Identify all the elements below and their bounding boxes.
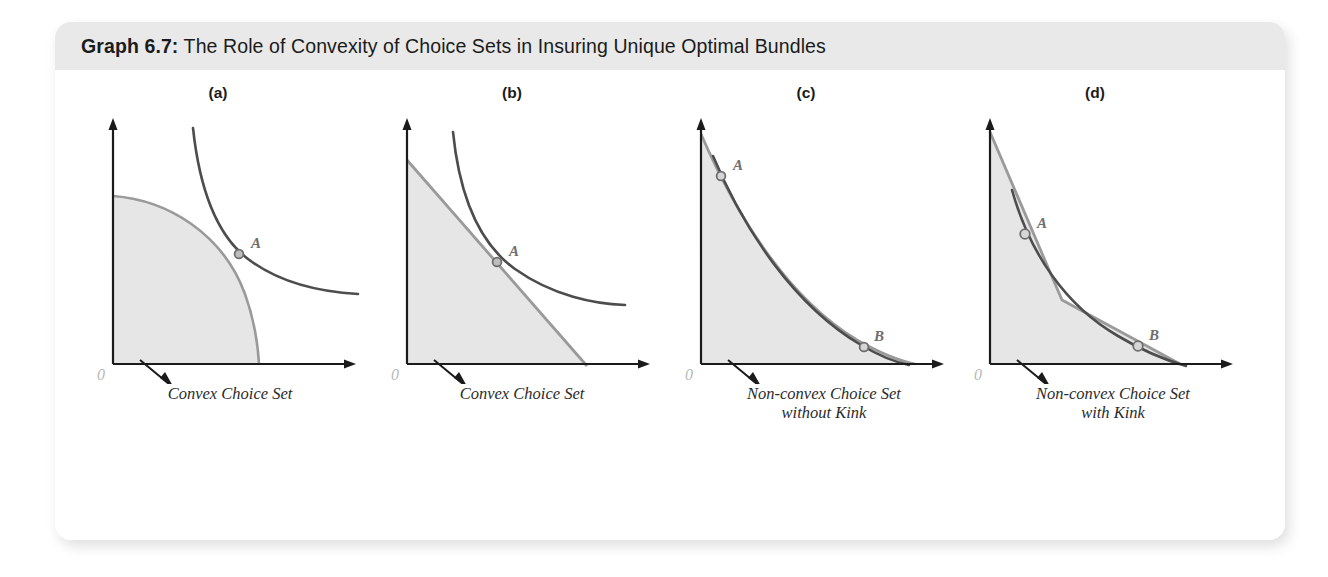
panel-c-caption-line2: without Kink: [679, 403, 969, 422]
panels-container: (a) 0 A: [55, 70, 1285, 540]
origin-label-c: 0: [685, 366, 693, 383]
panel-a-plot: 0 A: [73, 114, 363, 384]
point-marker-d-A: [1020, 229, 1030, 239]
point-marker-d-B: [1133, 341, 1143, 351]
y-axis-arrow-a: [109, 118, 118, 130]
panel-b-caption-line1: Convex Choice Set: [460, 384, 585, 403]
panel-d: (d) 0 A: [950, 70, 1240, 480]
panel-a-caption: Convex Choice Set: [85, 384, 375, 403]
point-label-b-A: A: [508, 243, 519, 259]
panel-a: (a) 0 A: [73, 70, 363, 480]
point-label-c-A: A: [732, 157, 743, 173]
caption-pointer-head-c: [748, 372, 762, 384]
x-axis-arrow-a: [344, 360, 356, 369]
panel-a-label: (a): [73, 84, 363, 102]
panel-a-caption-line1: Convex Choice Set: [168, 384, 293, 403]
point-marker-a-A: [235, 250, 244, 259]
point-label-d-B: B: [1148, 327, 1159, 343]
panel-b-caption: Convex Choice Set: [377, 384, 667, 403]
panel-d-caption-line2: with Kink: [968, 403, 1258, 422]
panel-b: (b) 0 A Con: [367, 70, 657, 480]
point-marker-c-A: [717, 172, 726, 181]
figure-title: Graph 6.7: The Role of Convexity of Choi…: [81, 35, 826, 58]
panel-d-label: (d): [950, 84, 1240, 102]
point-marker-b-A: [493, 258, 502, 267]
panel-b-label: (b): [367, 84, 657, 102]
x-axis-arrow-d: [1221, 360, 1233, 369]
origin-label-a: 0: [97, 366, 105, 383]
x-axis-arrow-b: [638, 360, 650, 369]
point-label-a-A: A: [250, 235, 261, 251]
panel-d-plot: 0 A B: [950, 114, 1240, 384]
panel-c-plot: 0 A B: [661, 114, 951, 384]
caption-pointer-head-a: [160, 372, 174, 384]
panel-c-caption: Non-convex Choice Set without Kink: [679, 384, 969, 422]
figure-title-text: The Role of Convexity of Choice Sets in …: [178, 35, 825, 57]
caption-pointer-head-b: [454, 372, 468, 384]
caption-pointer-head-d: [1037, 372, 1051, 384]
panel-b-plot: 0 A: [367, 114, 657, 384]
figure-card: Graph 6.7: The Role of Convexity of Choi…: [55, 22, 1285, 540]
figure-number-label: Graph 6.7:: [81, 35, 178, 57]
point-label-d-A: A: [1036, 215, 1047, 231]
figure-header: Graph 6.7: The Role of Convexity of Choi…: [55, 22, 1285, 70]
origin-label-d: 0: [974, 366, 982, 383]
y-axis-arrow-d: [986, 118, 995, 130]
panel-c: (c) 0 A: [661, 70, 951, 480]
y-axis-arrow-b: [403, 118, 412, 130]
x-axis-arrow-c: [932, 360, 944, 369]
panel-d-caption: Non-convex Choice Set with Kink: [968, 384, 1258, 422]
panel-c-caption-line1: Non-convex Choice Set: [747, 384, 901, 403]
point-marker-c-B: [860, 343, 869, 352]
panel-c-label: (c): [661, 84, 951, 102]
y-axis-arrow-c: [697, 118, 706, 130]
point-label-c-B: B: [873, 328, 884, 344]
panel-d-caption-line1: Non-convex Choice Set: [1036, 384, 1190, 403]
origin-label-b: 0: [391, 366, 399, 383]
